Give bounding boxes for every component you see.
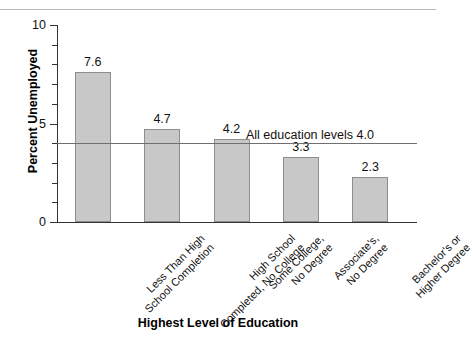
bar bbox=[352, 177, 388, 222]
reference-line-label: All education levels 4.0 bbox=[246, 128, 374, 142]
y-axis-ticks: 1050 bbox=[0, 0, 50, 353]
x-axis-line bbox=[57, 222, 417, 223]
x-category-label: Associate's,No Degree bbox=[331, 232, 390, 291]
plot-area: 7.64.74.23.32.3 bbox=[57, 25, 404, 222]
y-tick-major bbox=[50, 222, 57, 223]
top-border-rule bbox=[0, 9, 436, 10]
bar bbox=[283, 157, 319, 222]
bar bbox=[75, 72, 111, 222]
bar-value-label: 7.6 bbox=[63, 56, 123, 69]
y-tick-major bbox=[50, 25, 57, 26]
y-tick-label: 10 bbox=[18, 19, 46, 32]
bar-value-label: 2.3 bbox=[340, 161, 400, 174]
y-tick-label: 5 bbox=[18, 118, 46, 131]
x-category-label: Bachelor's orHigher Degree bbox=[404, 232, 472, 300]
bar bbox=[214, 139, 250, 222]
y-tick-major bbox=[50, 124, 57, 125]
y-tick-label: 0 bbox=[18, 216, 46, 229]
x-axis-title: Highest Level of Education bbox=[0, 316, 436, 330]
x-category-label: Less Than HighSchool Completion bbox=[133, 232, 216, 315]
reference-line bbox=[57, 143, 417, 144]
bar-value-label: 4.7 bbox=[132, 113, 192, 126]
